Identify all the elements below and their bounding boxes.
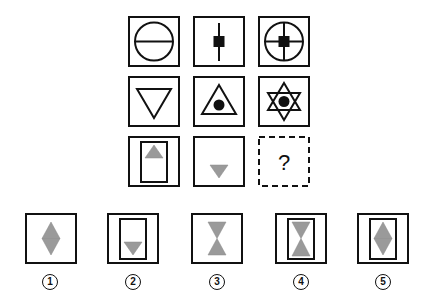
option-3-label: 3 bbox=[209, 274, 225, 290]
option-2-label: 2 bbox=[125, 274, 141, 290]
star-of-david-dot-icon bbox=[258, 76, 310, 127]
rectangle-diamond-icon bbox=[357, 213, 409, 264]
option-4-label: 4 bbox=[293, 274, 309, 290]
grid-cell-r1c1 bbox=[128, 16, 180, 67]
option-5-label: 5 bbox=[375, 274, 391, 290]
down-gray-triangle-icon bbox=[193, 136, 245, 187]
up-triangle-dot-icon bbox=[193, 76, 245, 127]
question-mark-icon: ? bbox=[258, 136, 310, 187]
option-1[interactable] bbox=[25, 213, 77, 264]
circle-with-horizontal-line-icon bbox=[128, 16, 180, 67]
grid-cell-r1c2 bbox=[193, 16, 245, 67]
option-4[interactable] bbox=[275, 213, 327, 264]
grid-cell-r2c2 bbox=[193, 76, 245, 127]
option-3[interactable] bbox=[191, 213, 243, 264]
grid-cell-r3c3-question: ? bbox=[258, 136, 310, 187]
circle-cross-square-icon bbox=[258, 16, 310, 67]
grid-cell-r2c1 bbox=[128, 76, 180, 127]
grid-cell-r1c3 bbox=[258, 16, 310, 67]
gray-diamond-icon bbox=[25, 213, 77, 264]
svg-text:?: ? bbox=[278, 150, 290, 175]
grid-cell-r3c2 bbox=[193, 136, 245, 187]
option-1-label: 1 bbox=[42, 274, 58, 290]
option-2[interactable] bbox=[107, 213, 159, 264]
rectangle-up-triangle-icon bbox=[128, 136, 180, 187]
grid-cell-r2c3 bbox=[258, 76, 310, 127]
gray-hourglass-icon bbox=[191, 213, 243, 264]
rectangle-down-triangle-icon bbox=[107, 213, 159, 264]
vertical-line-square-icon bbox=[193, 16, 245, 67]
option-5[interactable] bbox=[357, 213, 409, 264]
grid-cell-r3c1 bbox=[128, 136, 180, 187]
down-triangle-icon bbox=[128, 76, 180, 127]
rectangle-hourglass-icon bbox=[275, 213, 327, 264]
